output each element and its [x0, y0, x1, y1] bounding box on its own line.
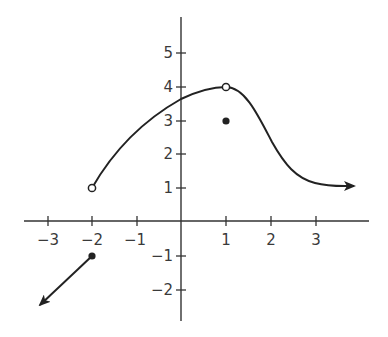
left-ray: [40, 256, 92, 305]
x-label-2: 2: [266, 231, 276, 249]
function-graph: −3 −2 −1 1 2 3 5 4 3 2 1 −1 −2: [0, 0, 388, 337]
x-label-1: 1: [221, 231, 231, 249]
closed-point-1-3: [222, 117, 229, 124]
x-label-neg3: −3: [37, 231, 59, 249]
x-label-neg2: −2: [81, 231, 103, 249]
x-label-3: 3: [311, 231, 321, 249]
y-tick-labels: 5 4 3 2 1 −1 −2: [151, 44, 173, 299]
main-curve: [92, 87, 354, 188]
y-label-4: 4: [163, 78, 173, 96]
y-label-1: 1: [163, 179, 173, 197]
closed-point-neg2-neg1: [88, 252, 95, 259]
x-tick-labels: −3 −2 −1 1 2 3: [37, 231, 321, 249]
y-label-5: 5: [163, 44, 173, 62]
open-point-neg2-1: [88, 184, 95, 191]
y-label-3: 3: [163, 112, 173, 130]
x-label-neg1: −1: [124, 231, 146, 249]
y-label-neg2: −2: [151, 281, 173, 299]
open-point-1-4: [222, 83, 229, 90]
y-label-neg1: −1: [151, 247, 173, 265]
y-label-2: 2: [163, 145, 173, 163]
